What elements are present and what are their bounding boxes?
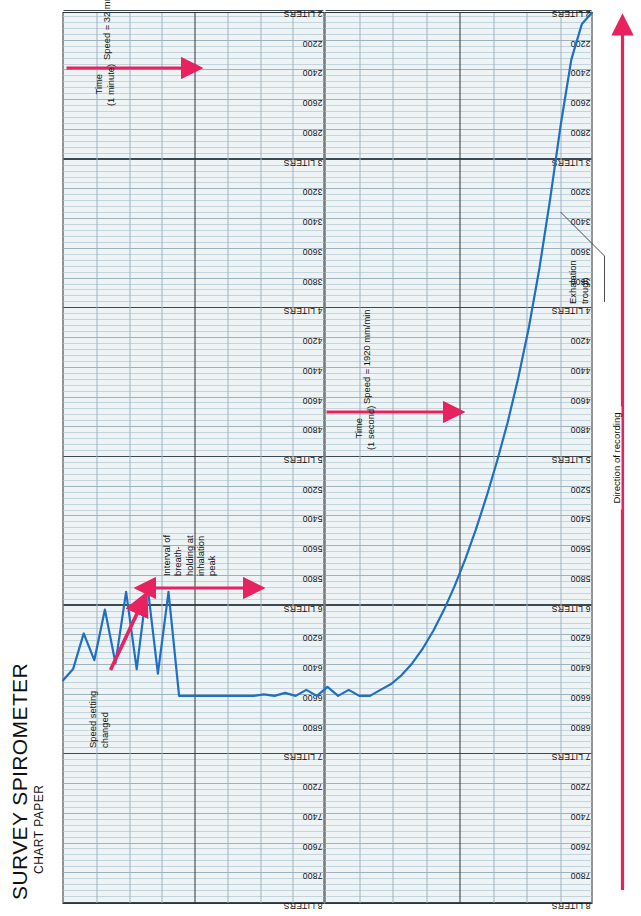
annotation-exhalation-trough: Exhalation trough <box>566 260 590 304</box>
annotation-breath-hold: Interval of breath- holding at inhalatio… <box>160 535 216 576</box>
annotation-speed-changed: Speed setting changed <box>86 691 110 748</box>
spirogram-overlay <box>0 0 641 916</box>
direction-of-recording-strip: Direction of recording <box>606 12 636 904</box>
annotation-time-one-second: Time (1 second) <box>352 418 376 450</box>
annotation-speed-1920: Speed = 1920 mm/min <box>360 309 372 404</box>
spirogram-path <box>62 12 592 696</box>
annotation-speed-32: Speed = 32 mm/min <box>100 0 112 60</box>
chart-sheet: SURVEY SPIROMETER CHART PAPER 8 LITERS78… <box>0 0 641 916</box>
direction-of-recording-label: Direction of recording <box>610 406 621 509</box>
annotation-time-one-minute: Time (1 minute) <box>92 74 116 106</box>
spirogram-trace <box>62 12 592 696</box>
